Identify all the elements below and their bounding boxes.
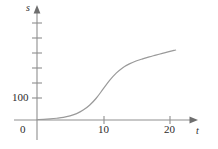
plot-canvas (0, 0, 218, 149)
x-tick-label-20: 20 (164, 124, 175, 135)
data-curve (37, 50, 176, 120)
x-axis-label: t (196, 126, 199, 136)
x-axis-arrowhead (190, 117, 199, 124)
x-tick-label-10: 10 (98, 124, 109, 135)
y-tick-label-100: 100 (12, 92, 29, 103)
y-axis-label: s (26, 3, 30, 13)
figure-container: s t 100 0 10 20 (0, 0, 218, 149)
origin-label: 0 (20, 124, 26, 135)
y-axis-arrowhead (34, 5, 41, 14)
